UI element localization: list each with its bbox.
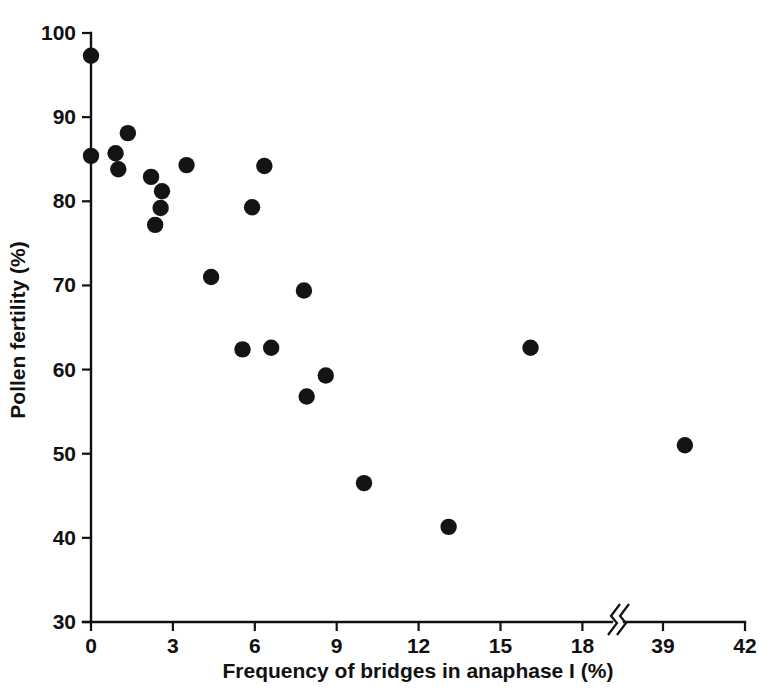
data-point bbox=[677, 437, 693, 453]
y-tick-label-30: 30 bbox=[53, 610, 76, 633]
data-point bbox=[120, 125, 136, 141]
data-point bbox=[178, 157, 194, 173]
y-tick-label-80: 80 bbox=[53, 189, 76, 212]
x-tick-label-6: 6 bbox=[249, 634, 261, 657]
data-point bbox=[522, 339, 538, 355]
data-point bbox=[107, 145, 123, 161]
data-point bbox=[152, 200, 168, 216]
data-points-group bbox=[83, 48, 693, 536]
y-tick-label-90: 90 bbox=[53, 105, 76, 128]
data-point bbox=[298, 388, 314, 404]
tick-marks-group bbox=[82, 33, 745, 631]
x-tick-label-3: 3 bbox=[167, 634, 179, 657]
tick-labels-group: 3040506070809010003691215183942 bbox=[41, 21, 757, 657]
y-tick-label-100: 100 bbox=[41, 21, 76, 44]
data-point bbox=[440, 519, 456, 535]
data-point bbox=[356, 475, 372, 491]
data-point bbox=[244, 199, 260, 215]
x-tick-label-15: 15 bbox=[489, 634, 513, 657]
data-point bbox=[154, 183, 170, 199]
x-tick-label-18: 18 bbox=[571, 634, 595, 657]
y-tick-label-70: 70 bbox=[53, 273, 76, 296]
data-point bbox=[296, 282, 312, 298]
data-point bbox=[83, 148, 99, 164]
data-point bbox=[256, 158, 272, 174]
data-point bbox=[110, 161, 126, 177]
y-axis-title: Pollen fertility (%) bbox=[6, 241, 29, 418]
axis-break-slash-2 bbox=[617, 604, 629, 635]
axes-group bbox=[83, 33, 745, 635]
axis-break-slash-1 bbox=[608, 604, 620, 635]
x-tick-label-39: 39 bbox=[651, 634, 674, 657]
data-point bbox=[83, 48, 99, 64]
x-tick-label-42: 42 bbox=[733, 634, 756, 657]
y-tick-label-60: 60 bbox=[53, 358, 76, 381]
x-tick-label-0: 0 bbox=[85, 634, 97, 657]
data-point bbox=[263, 339, 279, 355]
data-point bbox=[203, 269, 219, 285]
data-point bbox=[318, 367, 334, 383]
x-tick-label-12: 12 bbox=[407, 634, 430, 657]
chart-canvas: 3040506070809010003691215183942 Frequenc… bbox=[0, 0, 776, 691]
y-tick-label-40: 40 bbox=[53, 526, 76, 549]
data-point bbox=[143, 169, 159, 185]
y-tick-label-50: 50 bbox=[53, 442, 76, 465]
x-tick-label-9: 9 bbox=[331, 634, 343, 657]
data-point bbox=[234, 341, 250, 357]
data-point bbox=[147, 217, 163, 233]
x-axis-title: Frequency of bridges in anaphase I (%) bbox=[223, 659, 614, 682]
scatter-plot-figure: 3040506070809010003691215183942 Frequenc… bbox=[0, 0, 776, 691]
